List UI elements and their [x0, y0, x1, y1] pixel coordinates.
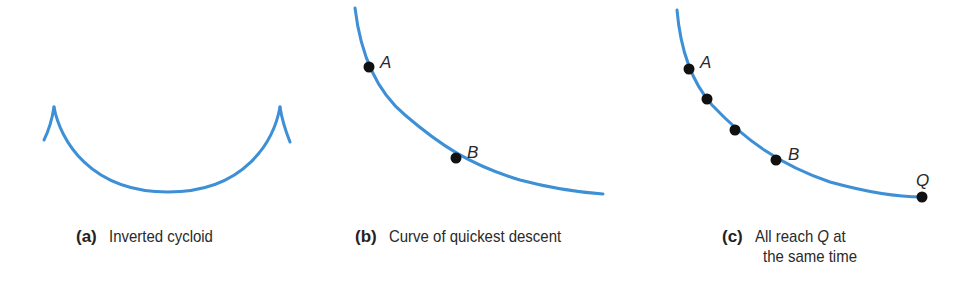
- caption-c-line1: All reach Q at: [755, 227, 846, 247]
- inverted-cycloid-curve: [54, 107, 280, 192]
- caption-c-suffix: at: [829, 227, 846, 246]
- panel-a-diagram: [44, 107, 290, 192]
- caption-a: (a)Inverted cycloid: [76, 227, 227, 247]
- point-a-dot: [364, 62, 375, 73]
- point-b-dot: [771, 155, 782, 166]
- panel-b-diagram: A B: [355, 8, 603, 194]
- tautochrone-curve: [677, 10, 922, 197]
- cycloid-cusp-right: [280, 107, 290, 142]
- point-b-label: B: [467, 143, 478, 162]
- caption-c-prefix: All reach: [755, 227, 817, 246]
- caption-b-tag: (b): [355, 227, 377, 246]
- caption-c-line2: the same time: [763, 247, 857, 267]
- caption-c-var: Q: [817, 227, 829, 246]
- point-q-dot: [917, 192, 928, 203]
- intermediate-point-dot: [730, 125, 741, 136]
- caption-b-text: Curve of quickest descent: [389, 227, 561, 247]
- point-b-label: B: [788, 145, 799, 164]
- point-a-label: A: [699, 53, 711, 72]
- point-a-dot: [684, 64, 695, 75]
- cycloid-cusp-left: [44, 107, 54, 140]
- intermediate-point-dot: [702, 94, 713, 105]
- point-q-label: Q: [916, 171, 929, 190]
- caption-b: (b)Curve of quickest descent: [355, 227, 584, 247]
- panel-c-diagram: A B Q: [677, 10, 929, 203]
- point-a-label: A: [379, 53, 391, 72]
- caption-c-tag: (c): [722, 227, 743, 246]
- point-b-dot: [451, 153, 462, 164]
- caption-c: (c)All reach Q at the same time: [722, 227, 959, 267]
- brachistochrone-curve: [355, 8, 603, 194]
- caption-a-tag: (a): [76, 227, 97, 246]
- caption-a-text: Inverted cycloid: [109, 227, 213, 247]
